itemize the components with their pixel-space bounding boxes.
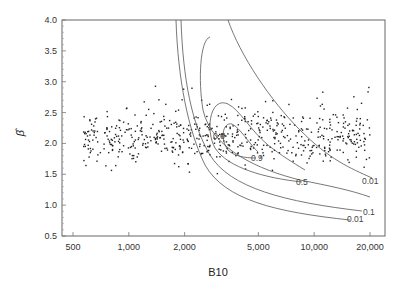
scatter-point [341,132,342,133]
scatter-point [174,163,175,164]
scatter-point [163,135,164,136]
scatter-point [272,170,273,171]
scatter-point [191,88,192,89]
scatter-point [117,156,118,157]
scatter-point [182,152,183,153]
scatter-point [179,145,180,146]
scatter-point [85,133,86,134]
scatter-point [107,139,108,140]
scatter-point [194,153,195,154]
scatter-point [276,125,277,126]
scatter-point [190,132,191,133]
scatter-point [286,152,287,153]
scatter-point [119,127,120,128]
scatter-point [214,143,215,144]
scatter-point [140,121,141,122]
contour-label-001-right: 0.01 [362,176,379,186]
scatter-point [347,136,348,137]
scatter-point [158,99,159,100]
scatter-point [148,109,149,110]
scatter-point [109,131,110,132]
scatter-point [107,116,108,117]
scatter-point [250,146,251,147]
scatter-point [178,166,179,167]
scatter-point [89,120,90,121]
scatter-point [265,122,266,123]
scatter-point [110,144,111,145]
scatter-point [303,118,304,119]
scatter-point [188,130,189,131]
scatter-point [155,138,156,139]
scatter-point [311,150,312,151]
scatter-point [313,145,314,146]
scatter-point [130,128,131,129]
scatter-point [149,136,150,137]
scatter-point [356,151,357,152]
x-tick-label: 500 [65,242,80,252]
scatter-point [135,139,136,140]
scatter-point [115,134,116,135]
y-tick-label: 3.0 [44,77,57,87]
scatter-point [145,143,146,144]
scatter-point [211,128,212,129]
scatter-point [131,134,132,135]
scatter-point [109,142,110,143]
scatter-point [115,128,116,129]
scatter-points [83,86,371,175]
x-tick-label: 20,000 [356,242,384,252]
scatter-point [232,141,233,142]
scatter-point [97,131,98,132]
scatter-point [342,140,343,141]
contour-01-lower [181,20,362,211]
contour-label-06: 0.6 [213,131,225,141]
scatter-point [253,115,254,116]
scatter-point [272,129,273,130]
scatter-point [251,123,252,124]
scatter-point [226,117,227,118]
scatter-point [85,139,86,140]
scatter-point [287,135,288,136]
scatter-point [347,125,348,126]
scatter-point [301,121,302,122]
scatter-point [257,111,258,112]
scatter-point [178,154,179,155]
scatter-point [334,137,335,138]
scatter-point [301,128,302,129]
scatter-point [302,116,303,117]
scatter-point [153,137,154,138]
scatter-point [217,173,218,174]
scatter-point [91,124,92,125]
scatter-point [123,121,124,122]
y-axis-title: β̂ [14,128,26,137]
scatter-point [166,127,167,128]
scatter-point [329,122,330,123]
scatter-point [361,145,362,146]
scatter-point [282,146,283,147]
scatter-point [195,129,196,130]
scatter-point [191,148,192,149]
scatter-point [134,147,135,148]
scatter-point [353,143,354,144]
scatter-point [92,149,93,150]
scatter-point [180,139,181,140]
scatter-point [349,139,350,140]
scatter-point [104,132,105,133]
scatter-point [325,154,326,155]
scatter-point [112,145,113,146]
scatter-point [282,123,283,124]
scatter-point [349,136,350,137]
scatter-point [336,136,337,137]
scatter-point [292,147,293,148]
scatter-point [285,128,286,129]
scatter-point [88,145,89,146]
scatter-point [161,151,162,152]
plot-frame [62,20,385,236]
scatter-point [330,124,331,125]
scatter-point [253,144,254,145]
scatter-point [250,149,251,150]
scatter-point [119,149,120,150]
scatter-point [232,136,233,137]
scatter-point [119,138,120,139]
y-axis: 0.51.01.52.02.53.03.54.0 [44,15,66,241]
scatter-point [100,152,101,153]
